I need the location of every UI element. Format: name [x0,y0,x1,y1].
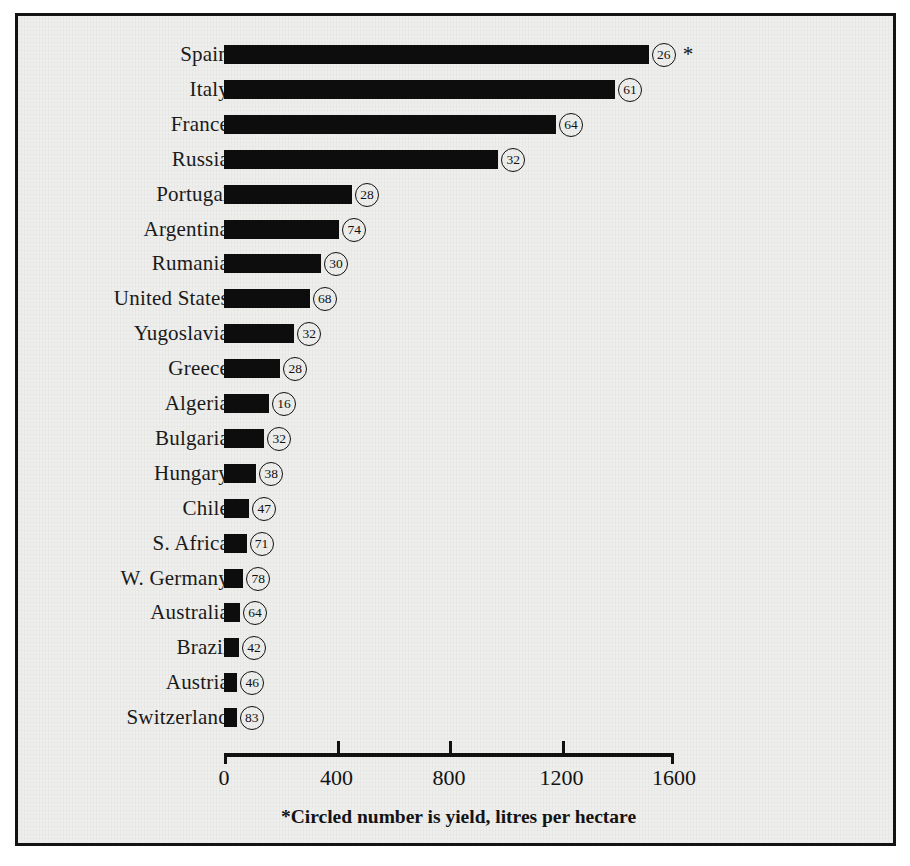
axis-tick-label: 1200 [502,765,622,791]
chart-frame: Spain26*Italy61France64Russia32Portugal2… [15,13,896,846]
bar [224,673,237,692]
bar-row: Rumania30 [18,246,899,281]
category-label: Portugal [0,177,229,212]
bar [224,115,556,134]
bar-row: United States68 [18,281,899,316]
bar-row: Italy61 [18,72,899,107]
category-label: Hungary [0,456,229,491]
bar-row: S. Africa71 [18,526,899,561]
bar [224,499,249,518]
axis-tick-label: 800 [389,765,509,791]
yield-badge: 61 [618,78,642,102]
category-label: Chile [0,491,229,526]
bar-row: Austria46 [18,665,899,700]
bar [224,394,269,413]
category-label: Switzerland [0,700,229,735]
yield-badge: 83 [240,706,264,730]
category-label: Argentina [0,212,229,247]
bar-row: Australia64 [18,595,899,630]
yield-badge: 28 [283,357,307,381]
footnote-marker: * [683,42,694,66]
axis-tick [449,741,452,754]
category-label: Austria [0,665,229,700]
bar-chart-plot-area: Spain26*Italy61France64Russia32Portugal2… [18,16,899,849]
bar [224,289,310,308]
bar-row: W. Germany78 [18,561,899,596]
yield-badge: 46 [240,671,264,695]
bar-row: Hungary38 [18,456,899,491]
yield-badge: 28 [355,183,379,207]
bar [224,45,649,64]
bar-row: Spain26* [18,37,899,72]
bar-row: Argentina74 [18,212,899,247]
bar [224,464,256,483]
bar-row: France64 [18,107,899,142]
yield-badge: 32 [267,427,291,451]
yield-badge: 74 [342,218,366,242]
category-label: Spain [0,37,229,72]
bar [224,254,321,273]
value-axis: 040080012001600 [224,753,674,754]
bar-row: Yugoslavia32 [18,316,899,351]
axis-tick-label: 1600 [614,765,734,791]
axis-tick-label: 400 [277,765,397,791]
bar [224,429,264,448]
axis-tick [562,741,565,754]
category-label: Bulgaria [0,421,229,456]
bar-row: Greece28 [18,351,899,386]
category-label: Yugoslavia [0,316,229,351]
bar [224,150,498,169]
category-label: Brazil [0,630,229,665]
axis-tick-label: 0 [164,765,284,791]
axis-tick [337,741,340,754]
yield-badge: 64 [559,113,583,137]
category-label: United States [0,281,229,316]
category-label: S. Africa [0,526,229,561]
category-label: Italy [0,72,229,107]
bar [224,638,239,657]
bar-row: Brazil42 [18,630,899,665]
yield-badge: 32 [297,322,321,346]
category-label: Algeria [0,386,229,421]
axis-tick [224,753,227,764]
bar [224,185,352,204]
yield-badge: 71 [250,532,274,556]
bar-row: Algeria16 [18,386,899,421]
bar [224,708,237,727]
yield-badge: 16 [272,392,296,416]
chart-footnote: *Circled number is yield, litres per hec… [18,806,899,828]
bar [224,80,615,99]
bar-row: Russia32 [18,142,899,177]
yield-badge: 78 [246,567,270,591]
bar [224,220,339,239]
bar-row: Switzerland83 [18,700,899,735]
yield-badge: 68 [313,287,337,311]
category-label: Greece [0,351,229,386]
category-label: Russia [0,142,229,177]
bar [224,603,240,622]
bar-row: Bulgaria32 [18,421,899,456]
yield-badge: 30 [324,252,348,276]
bar-row: Chile47 [18,491,899,526]
category-label: W. Germany [0,561,229,596]
chart-page: Spain26*Italy61France64Russia32Portugal2… [0,0,910,866]
bar [224,324,294,343]
yield-badge: 26 [652,43,676,67]
bar [224,359,280,378]
category-label: France [0,107,229,142]
bar-row: Portugal28 [18,177,899,212]
yield-badge: 64 [243,601,267,625]
bar [224,569,243,588]
yield-badge: 38 [259,462,283,486]
category-label: Australia [0,595,229,630]
category-label: Rumania [0,246,229,281]
yield-badge: 32 [501,148,525,172]
axis-tick [671,753,674,764]
bar [224,534,247,553]
yield-badge: 42 [242,636,266,660]
yield-badge: 47 [252,497,276,521]
